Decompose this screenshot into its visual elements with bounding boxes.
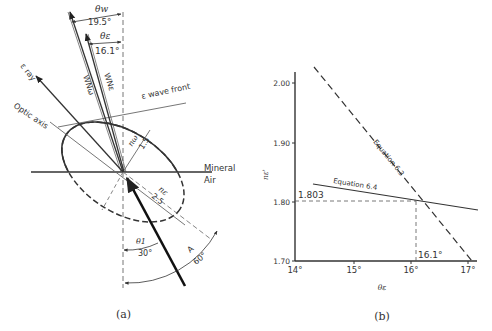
equation-6-4-line xyxy=(313,184,478,210)
x-tick-label: 17° xyxy=(460,265,475,275)
n-e-axis-dashed xyxy=(123,172,212,240)
mineral-label: Mineral xyxy=(204,163,235,173)
x-ticks: 14° 15° 16° 17° xyxy=(287,261,475,275)
x-tick-label: 14° xyxy=(287,265,302,275)
air-label: Air xyxy=(204,175,216,185)
equation-6-4-label: Equation 6.4 xyxy=(333,177,379,192)
y-axis-label: nε' xyxy=(261,169,270,180)
wn-e-label: WNε xyxy=(102,72,116,92)
theta-w-value: 19.5° xyxy=(88,17,111,27)
theta-e-value: 16.1° xyxy=(95,46,120,56)
y-tick-label: 2.00 xyxy=(273,79,290,88)
angle-a-label: A xyxy=(186,244,196,255)
optic-axis-label: Optic axis xyxy=(12,101,50,131)
panel-a-caption: (a) xyxy=(116,308,131,321)
n-w-axis-dashed xyxy=(102,172,123,210)
figure: θw 19.5° θε 16.1° ε ray WNω WNε ε wave f… xyxy=(0,0,492,331)
angle-a-value: 60° xyxy=(192,251,209,267)
wave-front-label: ε wave front xyxy=(141,82,191,101)
wn-omega-label: WNω xyxy=(81,74,96,97)
theta-1-value: 30° xyxy=(138,249,152,258)
y-tick-label: 1.80 xyxy=(273,198,290,207)
intercept-n-label: 1.803 xyxy=(298,190,324,200)
x-tick-label: 16° xyxy=(403,265,418,275)
wave-front-line xyxy=(58,103,186,127)
x-tick-label: 15° xyxy=(346,265,361,275)
panel-a-diagram: θw 19.5° θε 16.1° ε ray WNω WNε ε wave f… xyxy=(12,4,236,321)
intercept-theta-label: 16.1° xyxy=(418,250,443,260)
y-tick-label: 1.90 xyxy=(273,139,290,148)
theta-e-dimension xyxy=(89,42,121,44)
y-ticks: 2.00 1.90 1.80 1.70 xyxy=(273,79,295,266)
e-ray-label: ε ray xyxy=(18,62,37,83)
theta-w-label: θw xyxy=(95,4,108,14)
x-axis-label: θε xyxy=(378,283,387,292)
panel-b-caption: (b) xyxy=(374,310,390,323)
panel-b-chart: 2.00 1.90 1.80 1.70 14° 15° 16° 17° θε n… xyxy=(261,67,478,323)
theta-1-label: θ1 xyxy=(136,237,146,246)
equation-6-3-label: Equation 6.3 xyxy=(371,138,405,178)
theta-e-label: θε xyxy=(100,31,110,41)
